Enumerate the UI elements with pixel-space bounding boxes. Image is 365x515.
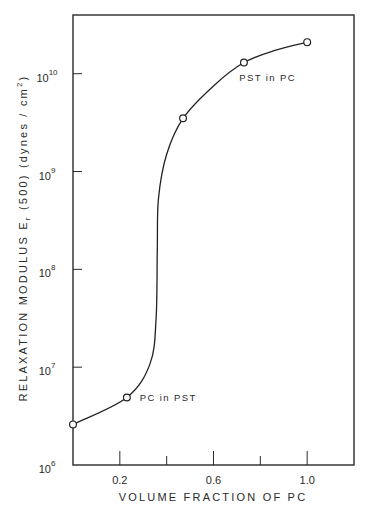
x-tick-label: 0.2 (112, 474, 127, 486)
data-point (70, 421, 77, 428)
data-point (180, 115, 187, 122)
data-point (123, 394, 130, 401)
annotations: PST in PCPC in PST (140, 72, 296, 403)
y-axis-label-middle: (500) (dynes / cm (17, 87, 29, 215)
y-tick-label: 107 (39, 361, 56, 377)
y-tick-label: 108 (39, 263, 56, 279)
y-axis-label: RELAXATION MODULUS Er (500) (dynes / cm2… (15, 75, 32, 402)
data-point (241, 59, 248, 66)
y-tick-label: 106 (39, 459, 56, 475)
data-points (70, 39, 311, 428)
x-tick-label: 1.0 (300, 474, 315, 486)
y-axis-label-prefix: RELAXATION MODULUS E (17, 220, 29, 401)
annotation-label: PC in PST (140, 392, 197, 403)
annotation-label: PST in PC (239, 72, 296, 83)
x-tick-label: 0.6 (206, 474, 221, 486)
y-tick-label: 1010 (36, 68, 58, 84)
y-axis-ticks: 1061071081091010 (36, 68, 82, 475)
y-axis-label-suffix: ) (17, 75, 29, 81)
chart: 0.20.61.0 1061071081091010 PST in PCPC i… (0, 0, 365, 515)
plot-frame (73, 15, 354, 465)
y-axis-label-superscript: 2 (15, 80, 24, 87)
data-point (304, 39, 311, 46)
y-tick-label: 109 (39, 166, 56, 182)
x-axis-label: VOLUME FRACTION OF PC (119, 491, 308, 503)
x-axis-ticks: 0.20.61.0 (112, 451, 315, 486)
fit-curve (73, 42, 307, 424)
